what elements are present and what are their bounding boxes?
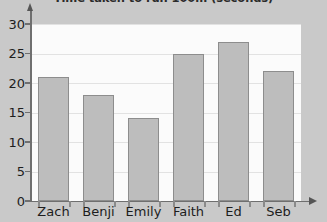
y-axis-tick xyxy=(25,171,31,173)
bar xyxy=(263,71,294,201)
y-axis-tick xyxy=(25,112,31,114)
bar xyxy=(83,95,114,201)
y-axis-tick xyxy=(25,200,31,202)
x-axis-arrowhead xyxy=(309,197,317,205)
y-axis-tick xyxy=(25,23,31,25)
y-axis-tick xyxy=(25,141,31,143)
y-axis-tick xyxy=(25,53,31,55)
bar xyxy=(218,42,249,201)
y-axis-arrowhead xyxy=(27,3,33,11)
plot-area xyxy=(31,24,301,201)
y-axis-tick-label: 30 xyxy=(8,18,25,31)
y-axis-line xyxy=(30,10,32,202)
gridline xyxy=(31,83,301,84)
x-axis-category-label: Seb xyxy=(249,205,309,218)
bar-chart: Time taken to run 100m (seconds) 0510152… xyxy=(0,0,327,222)
y-axis-tick-label: 20 xyxy=(8,77,25,90)
bar xyxy=(173,54,204,202)
bar xyxy=(38,77,69,201)
x-axis-line xyxy=(30,201,310,203)
y-axis-tick-label: 5 xyxy=(17,165,25,178)
gridline xyxy=(31,172,301,173)
gridline xyxy=(31,54,301,55)
chart-title: Time taken to run 100m (seconds) xyxy=(0,0,327,5)
bar xyxy=(128,118,159,201)
y-axis-tick-label: 25 xyxy=(8,47,25,60)
gridline xyxy=(31,142,301,143)
y-axis-tick-label: 15 xyxy=(8,106,25,119)
gridline xyxy=(31,24,301,25)
y-axis-tick-label: 10 xyxy=(8,136,25,149)
y-axis-tick xyxy=(25,82,31,84)
gridline xyxy=(31,113,301,114)
